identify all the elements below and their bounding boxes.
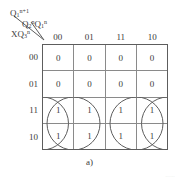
kmap-cell-r2c2: 1 bbox=[106, 98, 137, 123]
kmap-cell-r3c1: 1 bbox=[74, 124, 105, 149]
row-variable-superscript: n bbox=[27, 29, 30, 35]
column-header-3: 10 bbox=[137, 31, 169, 44]
karnaugh-map-figure: Q1n+1 Q2nQ1n XQ3n 00 01 11 10 00 01 11 1… bbox=[0, 0, 179, 182]
kmap-row-0: 0 0 0 0 bbox=[43, 45, 167, 71]
kmap-cell-r0c1: 0 bbox=[74, 45, 105, 70]
column-headers: 00 01 11 10 bbox=[42, 31, 168, 44]
kmap-cell-r1c1: 0 bbox=[74, 71, 105, 96]
column-header-0: 00 bbox=[42, 31, 74, 44]
kmap-cell-r2c3: 1 bbox=[137, 98, 167, 123]
kmap-cell-r3c3: 1 bbox=[137, 124, 167, 149]
kmap-cell-r0c3: 0 bbox=[137, 45, 167, 70]
kmap-cell-r0c2: 0 bbox=[106, 45, 137, 70]
kmap-cell-r1c3: 0 bbox=[137, 71, 167, 96]
kmap-row-2: 1 1 1 1 bbox=[43, 98, 167, 124]
figure-caption: a) bbox=[0, 157, 179, 167]
kmap-cell-r1c2: 0 bbox=[106, 71, 137, 96]
row-variable-label: XQ3n bbox=[11, 29, 30, 39]
next-state-superscript: n+1 bbox=[20, 8, 29, 14]
kmap-cell-r2c1: 1 bbox=[74, 98, 105, 123]
row-header-3: 10 bbox=[16, 124, 42, 151]
kmap-cell-r1c0: 0 bbox=[43, 71, 74, 96]
kmap-cell-r3c0: 1 bbox=[43, 124, 74, 149]
row-header-1: 01 bbox=[16, 71, 42, 98]
column-header-1: 01 bbox=[74, 31, 106, 44]
row-header-0: 00 bbox=[16, 44, 42, 71]
row-header-2: 11 bbox=[16, 97, 42, 124]
column-variable-sup-2: n bbox=[44, 19, 47, 25]
watermark-artifact: ········ bbox=[165, 175, 175, 179]
row-headers: 00 01 11 10 bbox=[16, 44, 42, 150]
kmap-row-1: 0 0 0 0 bbox=[43, 71, 167, 97]
kmap-row-3: 1 1 1 1 bbox=[43, 124, 167, 149]
kmap-corner-header: Q1n+1 Q2nQ1n XQ3n bbox=[0, 0, 46, 46]
kmap-grid: 0 0 0 0 0 0 0 0 1 1 1 1 1 1 1 1 bbox=[42, 44, 168, 150]
kmap-cell-r0c0: 0 bbox=[43, 45, 74, 70]
column-variable-label: Q2nQ1n bbox=[22, 19, 47, 29]
kmap-cell-r3c2: 1 bbox=[106, 124, 137, 149]
kmap-cell-r2c0: 1 bbox=[43, 98, 74, 123]
column-variable-sup-1: n bbox=[32, 19, 35, 25]
row-variable-prefix: X bbox=[11, 29, 18, 39]
column-header-2: 11 bbox=[105, 31, 137, 44]
next-state-variable-label: Q1n+1 bbox=[10, 8, 29, 18]
